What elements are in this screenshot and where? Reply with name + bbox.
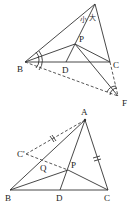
label-d: D <box>62 65 69 75</box>
label-a: A <box>81 107 88 117</box>
label-p2: P <box>71 160 76 170</box>
triangle-abc-bottom <box>10 120 108 190</box>
label-b: B <box>17 64 23 74</box>
annotation-small: 小 <box>80 15 87 24</box>
label-c: C <box>113 60 119 70</box>
figure-2: A B D C P Q C' <box>5 107 110 203</box>
angle-arc-b1 <box>36 52 39 68</box>
point-a <box>84 119 86 121</box>
dashed-c-prime-p <box>26 154 68 170</box>
label-p: P <box>79 34 84 44</box>
segment-ad <box>60 120 85 190</box>
geometry-diagram: B D C P F 小 大 A B D C P Q C' <box>0 0 131 217</box>
figure-1: B D C P F 小 大 <box>17 4 127 108</box>
label-d2: D <box>56 193 63 203</box>
label-c-prime: C' <box>17 149 25 159</box>
label-b2: B <box>5 193 11 203</box>
label-q: Q <box>40 163 47 173</box>
dashed-ac-prime <box>26 120 85 154</box>
segment-apex-p <box>75 4 95 44</box>
label-f: F <box>122 98 127 108</box>
segment-pc <box>75 44 110 62</box>
triangle-abc-top <box>25 4 110 62</box>
segment-bp <box>10 170 68 190</box>
annotation-large: 大 <box>89 13 96 22</box>
label-c2: C <box>104 193 110 203</box>
